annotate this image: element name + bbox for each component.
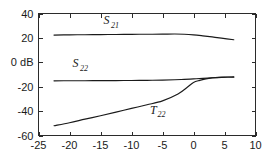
plot-svg: 40200 dB-20-40-60 -25-20-15-10-50510 S21…	[0, 0, 271, 162]
y-tick-label: 40	[21, 8, 33, 20]
data-curves	[54, 34, 234, 126]
curve-label-subscript: 21	[111, 21, 119, 30]
curve-label-base: S	[73, 56, 79, 70]
x-tick-label: 5	[221, 139, 227, 151]
curve-label-s22: S22	[73, 56, 89, 73]
curve-label-s21: S21	[104, 13, 120, 30]
tick-marks	[39, 14, 257, 137]
curve-label-subscript: 22	[158, 110, 166, 119]
x-axis-tick-labels: -25-20-15-10-50510	[31, 139, 262, 151]
y-tick-label: -20	[18, 81, 34, 93]
x-tick-label: 10	[249, 139, 261, 151]
plot-frame	[39, 14, 256, 136]
curve-t22	[54, 77, 234, 126]
x-tick-label: -10	[124, 139, 140, 151]
y-tick-label: 0 dB	[11, 56, 34, 68]
curve-label-subscript: 22	[80, 64, 88, 73]
x-tick-label: -15	[93, 139, 109, 151]
x-tick-label: -25	[31, 139, 47, 151]
x-tick-label: -20	[62, 139, 78, 151]
y-tick-label: 20	[21, 32, 33, 44]
x-tick-label: -5	[158, 139, 168, 151]
y-tick-label: -40	[18, 105, 34, 117]
y-axis-tick-labels: 40200 dB-20-40-60	[11, 8, 34, 142]
axes-frame	[39, 14, 256, 136]
curve-annotations: S21S22T22	[73, 13, 166, 119]
curve-label-t22: T22	[150, 103, 166, 120]
x-tick-label: 0	[190, 139, 196, 151]
curve-s21	[54, 34, 234, 40]
chart-figure: 40200 dB-20-40-60 -25-20-15-10-50510 S21…	[0, 0, 271, 162]
curve-label-base: S	[104, 13, 110, 27]
